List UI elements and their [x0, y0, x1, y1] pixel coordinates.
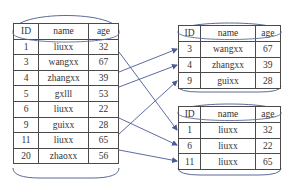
header-cell-id: ID: [179, 26, 201, 42]
arrow-id9-to-top: [119, 81, 177, 134]
cell-id: 5: [14, 86, 39, 102]
cell-age: 32: [255, 122, 280, 138]
cell-age: 65: [255, 154, 280, 170]
cell-name: liuxx: [201, 122, 255, 138]
cell-age: 28: [89, 117, 119, 133]
table-row: 20 zhaoxx 56: [14, 148, 119, 164]
table-row: 6 liuxx 22: [179, 138, 281, 154]
header-cell-age: age: [89, 24, 119, 40]
table-row: 1 liuxx 32: [179, 122, 281, 138]
table-header-row: ID name age: [179, 107, 281, 123]
header-cell-age: age: [255, 107, 280, 123]
cell-id: 20: [14, 148, 39, 164]
cell-age: 67: [89, 55, 119, 71]
cell-name: liuxx: [39, 39, 89, 55]
arrow-id6-to-bottom: [119, 118, 177, 145]
diagram-canvas: ID name age 1 liuxx 32 3 wangxx 67 4 zha…: [0, 0, 296, 189]
cell-id: 9: [179, 73, 201, 89]
cell-name: wangxx: [201, 41, 256, 57]
cell-age: 32: [89, 39, 119, 55]
table-row: 11 liuxx 65: [14, 133, 119, 149]
header-cell-name: name: [39, 24, 89, 40]
cell-name: zhangxx: [39, 70, 89, 86]
header-cell-name: name: [201, 26, 256, 42]
cell-id: 9: [14, 117, 39, 133]
table-row: 4 zhangxx 39: [179, 57, 281, 73]
table-row: 1 liuxx 32: [14, 39, 119, 55]
cell-id: 6: [14, 101, 39, 117]
arrow-id11-to-bottom: [119, 150, 177, 161]
cell-id: 11: [179, 154, 201, 170]
cell-id: 4: [14, 70, 39, 86]
cell-name: guixx: [39, 117, 89, 133]
header-cell-age: age: [255, 26, 280, 42]
table-row: 9 guixx 28: [14, 117, 119, 133]
cell-name: guixx: [201, 73, 256, 89]
cell-name: liuxx: [201, 154, 255, 170]
cell-name: liuxx: [39, 133, 89, 149]
cell-name: liuxx: [201, 138, 255, 154]
cell-id: 6: [179, 138, 201, 154]
cell-age: 39: [89, 70, 119, 86]
cell-age: 22: [255, 138, 280, 154]
cell-name: wangxx: [39, 55, 89, 71]
cell-name: liuxx: [39, 101, 89, 117]
cell-name: zhangxx: [201, 57, 256, 73]
cell-age: 28: [255, 73, 280, 89]
cell-id: 3: [14, 55, 39, 71]
cell-id: 1: [179, 122, 201, 138]
target-table-bottom: ID name age 1 liuxx 32 6 liuxx 22 11 liu…: [178, 106, 281, 170]
cell-id: 11: [14, 133, 39, 149]
cell-age: 22: [89, 101, 119, 117]
table-row: 11 liuxx 65: [179, 154, 281, 170]
left-cylinder-bottom-curve: [13, 168, 119, 178]
arrow-id3-to-top: [119, 49, 177, 72]
source-table: ID name age 1 liuxx 32 3 wangxx 67 4 zha…: [13, 23, 119, 164]
table-row: 4 zhangxx 39: [14, 70, 119, 86]
table-row: 9 guixx 28: [179, 73, 281, 89]
table-header-row: ID name age: [179, 26, 281, 42]
table-row: 3 wangxx 67: [179, 41, 281, 57]
cell-age: 53: [89, 86, 119, 102]
cell-age: 65: [89, 133, 119, 149]
cell-age: 67: [255, 41, 280, 57]
arrow-id1-to-bottom: [119, 52, 177, 130]
cell-age: 39: [255, 57, 280, 73]
header-cell-id: ID: [179, 107, 201, 123]
table-row: 5 gxlll 53: [14, 86, 119, 102]
cell-id: 4: [179, 57, 201, 73]
arrow-id4-to-top: [119, 65, 177, 87]
header-cell-name: name: [201, 107, 255, 123]
cell-name: zhaoxx: [39, 148, 89, 164]
table-row: 3 wangxx 67: [14, 55, 119, 71]
target-table-top: ID name age 3 wangxx 67 4 zhangxx 39 9 g…: [178, 25, 281, 89]
table-row: 6 liuxx 22: [14, 101, 119, 117]
table-header-row: ID name age: [14, 24, 119, 40]
cell-id: 3: [179, 41, 201, 57]
header-cell-id: ID: [14, 24, 39, 40]
cell-id: 1: [14, 39, 39, 55]
cell-name: gxlll: [39, 86, 89, 102]
cell-age: 56: [89, 148, 119, 164]
